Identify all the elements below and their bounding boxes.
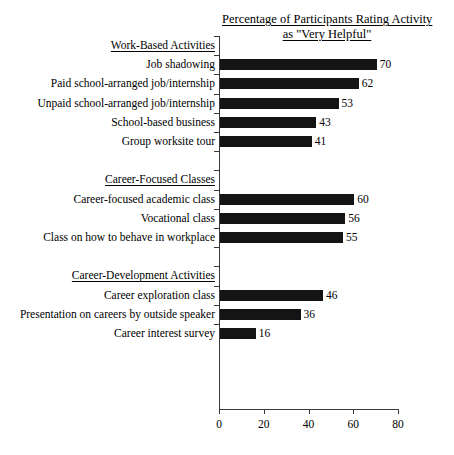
chart-bar: [220, 213, 345, 224]
chart-row: Career exploration class46: [0, 286, 454, 305]
chart-group-label: Career-Focused Classes: [105, 172, 215, 187]
chart-group-header-row: Work-Based Activities: [0, 36, 454, 55]
chart-bar-value-label: 43: [319, 115, 331, 130]
x-axis-tick-label: 40: [289, 417, 329, 431]
chart-category-label: Paid school-arranged job/internship: [51, 76, 215, 91]
x-axis-tick: [264, 409, 265, 414]
chart-row: Presentation on careers by outside speak…: [0, 305, 454, 324]
y-axis-tick: [214, 305, 219, 306]
chart-row: Career-focused academic class60: [0, 190, 454, 209]
chart-bar: [220, 232, 343, 243]
chart-bar: [220, 117, 316, 128]
x-axis-tick: [353, 409, 354, 414]
chart-bar: [220, 98, 339, 109]
y-axis-tick: [214, 113, 219, 114]
x-axis-tick: [398, 409, 399, 414]
y-axis-tick: [214, 324, 219, 325]
chart-bar-value-label: 56: [348, 211, 360, 226]
bar-chart: Percentage of Participants Rating Activi…: [0, 0, 454, 455]
x-axis-tick-label: 80: [378, 417, 418, 431]
chart-bar-value-label: 70: [380, 57, 392, 72]
chart-row: Vocational class56: [0, 209, 454, 228]
y-axis-tick: [214, 36, 219, 37]
y-axis-tick: [214, 94, 219, 95]
chart-row: Unpaid school-arranged job/internship53: [0, 94, 454, 113]
chart-group-label: Work-Based Activities: [111, 38, 215, 53]
chart-bar-value-label: 60: [357, 192, 369, 207]
chart-bar: [220, 78, 359, 89]
chart-bar-value-label: 16: [259, 326, 271, 341]
chart-category-label: Job shadowing: [146, 57, 215, 72]
chart-group-header-row: Career-Focused Classes: [0, 170, 454, 189]
y-axis-tick: [214, 209, 219, 210]
chart-row: Career interest survey16: [0, 324, 454, 343]
chart-row: Paid school-arranged job/internship62: [0, 74, 454, 93]
chart-bar: [220, 194, 354, 205]
x-axis-tick-label: 0: [199, 417, 239, 431]
chart-group-label: Career-Development Activities: [72, 268, 215, 283]
chart-row: Group worksite tour41: [0, 132, 454, 151]
y-axis-tick: [214, 55, 219, 56]
chart-category-label: Presentation on careers by outside speak…: [20, 307, 215, 322]
chart-category-label: Vocational class: [141, 211, 215, 226]
y-axis-tick: [214, 190, 219, 191]
x-axis-tick: [309, 409, 310, 414]
chart-spacer-row: [0, 247, 454, 266]
chart-category-label: Unpaid school-arranged job/internship: [37, 96, 215, 111]
y-axis-tick: [214, 170, 219, 171]
chart-row: Class on how to behave in workplace55: [0, 228, 454, 247]
chart-bar-value-label: 53: [342, 96, 354, 111]
y-axis-tick: [214, 151, 219, 152]
x-axis-tick-label: 60: [333, 417, 373, 431]
y-axis-tick: [214, 247, 219, 248]
y-axis-tick: [214, 266, 219, 267]
y-axis-tick: [214, 286, 219, 287]
chart-bar-value-label: 36: [304, 307, 316, 322]
chart-bar-value-label: 46: [326, 288, 338, 303]
chart-bar: [220, 328, 256, 339]
chart-bar: [220, 290, 323, 301]
y-axis-tick: [214, 132, 219, 133]
chart-category-label: Career interest survey: [114, 326, 215, 341]
chart-category-label: School-based business: [111, 115, 215, 130]
chart-category-label: Career-focused academic class: [73, 192, 215, 207]
chart-bar-value-label: 62: [362, 76, 374, 91]
y-axis-tick: [214, 228, 219, 229]
chart-bar-value-label: 55: [346, 230, 358, 245]
chart-category-label: Class on how to behave in workplace: [43, 230, 215, 245]
chart-category-label: Career exploration class: [104, 288, 215, 303]
y-axis-tick: [214, 74, 219, 75]
chart-spacer-row: [0, 151, 454, 170]
chart-title-line-1: Percentage of Participants Rating Activi…: [222, 12, 432, 27]
chart-category-label: Group worksite tour: [122, 134, 215, 149]
chart-bar-value-label: 41: [315, 134, 327, 149]
chart-row: Job shadowing70: [0, 55, 454, 74]
chart-bar: [220, 309, 301, 320]
chart-bar: [220, 136, 312, 147]
chart-row: School-based business43: [0, 113, 454, 132]
x-axis-tick: [219, 409, 220, 414]
x-axis-tick-label: 20: [244, 417, 284, 431]
chart-group-header-row: Career-Development Activities: [0, 266, 454, 285]
chart-bar: [220, 59, 377, 70]
